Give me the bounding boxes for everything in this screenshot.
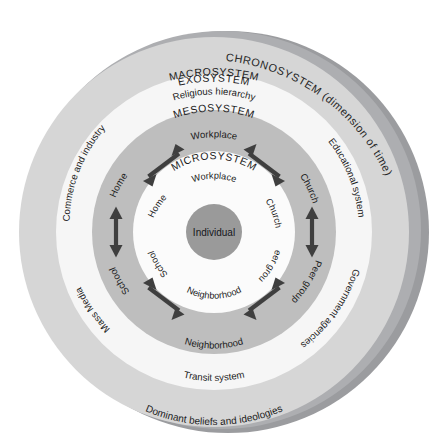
- ecological-systems-diagram: CHRONOSYSTEM (dimension of time) MACROSY…: [0, 0, 431, 433]
- individual-label: Individual: [193, 227, 235, 238]
- diagram-canvas: CHRONOSYSTEM (dimension of time) MACROSY…: [0, 0, 431, 433]
